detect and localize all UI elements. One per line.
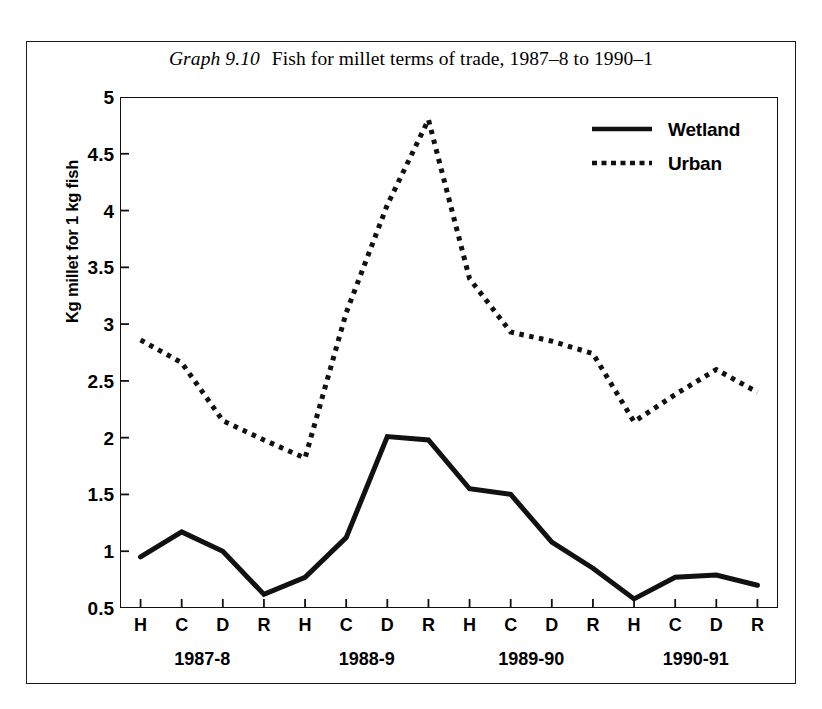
x-tick-label: C xyxy=(331,616,361,634)
y-tick-label: 1.5 xyxy=(68,485,114,504)
y-axis-tick-labels: 0.511.522.533.544.55 xyxy=(62,97,114,608)
x-tick-label: C xyxy=(496,616,526,634)
x-axis-group-labels: 1987-81988-91989-901990-91 xyxy=(120,650,778,674)
y-tick-label: 3 xyxy=(68,315,114,334)
x-tick-label: C xyxy=(660,616,690,634)
x-tick-label: H xyxy=(619,616,649,634)
x-axis-tick-labels: HCDRHCDRHCDRHCDR xyxy=(120,616,778,640)
x-group-label: 1990-91 xyxy=(626,650,766,668)
legend-swatch-solid-icon xyxy=(590,121,654,137)
chart-legend: Wetland Urban xyxy=(590,112,760,180)
x-tick-label: D xyxy=(537,616,567,634)
figure-page: Graph 9.10Fish for millet terms of trade… xyxy=(0,0,822,709)
x-tick-label: R xyxy=(413,616,443,634)
y-tick-label: 4 xyxy=(68,201,114,220)
legend-item-urban[interactable]: Urban xyxy=(590,146,760,180)
x-group-label: 1987-8 xyxy=(132,650,272,668)
y-tick-label: 4.5 xyxy=(68,144,114,163)
x-tick-label: R xyxy=(578,616,608,634)
series-line-wetland xyxy=(141,437,758,599)
legend-swatch-dotted-icon xyxy=(590,155,654,171)
y-tick-label: 3.5 xyxy=(68,258,114,277)
y-tick-label: 0.5 xyxy=(68,599,114,618)
x-tick-label: R xyxy=(742,616,772,634)
x-tick-label: R xyxy=(249,616,279,634)
y-tick-label: 1 xyxy=(68,542,114,561)
y-tick-label: 2 xyxy=(68,428,114,447)
x-tick-label: D xyxy=(701,616,731,634)
y-tick-label: 2.5 xyxy=(68,371,114,390)
x-tick-label: H xyxy=(290,616,320,634)
x-group-label: 1989-90 xyxy=(461,650,601,668)
x-tick-label: H xyxy=(126,616,156,634)
x-tick-label: D xyxy=(372,616,402,634)
legend-label-urban: Urban xyxy=(668,154,722,173)
chart-title-number: Graph 9.10 xyxy=(169,48,260,69)
y-tick-label: 5 xyxy=(68,88,114,107)
legend-label-wetland: Wetland xyxy=(668,120,740,139)
chart-title-text: Fish for millet terms of trade, 1987–8 t… xyxy=(272,48,653,69)
x-tick-label: C xyxy=(167,616,197,634)
x-group-label: 1988-9 xyxy=(297,650,437,668)
chart-title: Graph 9.10Fish for millet terms of trade… xyxy=(26,48,796,70)
legend-item-wetland[interactable]: Wetland xyxy=(590,112,760,146)
x-tick-label: D xyxy=(208,616,238,634)
x-tick-label: H xyxy=(455,616,485,634)
